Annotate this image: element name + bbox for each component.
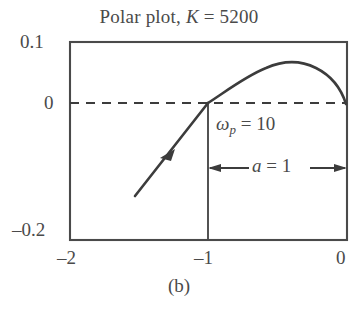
x-tick-label-right: 0 [336,247,346,269]
x-tick-label-mid: –1 [194,247,213,269]
y-tick-label-top: 0.1 [20,31,44,53]
polar-locus-arc [208,62,346,104]
omega-symbol: ω [216,113,229,134]
plot-canvas [0,0,358,314]
omega-crossover-annotation: ωp = 10 [216,113,275,135]
x-tick-label-left: –2 [57,247,76,269]
omega-subscript: p [229,122,236,137]
omega-value: = 10 [236,113,275,134]
figure-caption: (b) [0,275,358,297]
dimension-arrow-left-head-icon [208,164,221,172]
polar-plot-figure: Polar plot, K = 5200 0.1 0 –0.2 –2 –1 0 … [0,0,358,314]
distance-annotation: a = 1 [252,155,291,177]
distance-value: = 1 [262,155,292,176]
y-tick-label-bottom: –0.2 [12,219,45,241]
dimension-arrow-right-head-icon [334,164,347,172]
y-tick-label-zero: 0 [44,92,54,114]
distance-symbol: a [252,155,262,176]
polar-locus-straight-branch [135,103,208,196]
